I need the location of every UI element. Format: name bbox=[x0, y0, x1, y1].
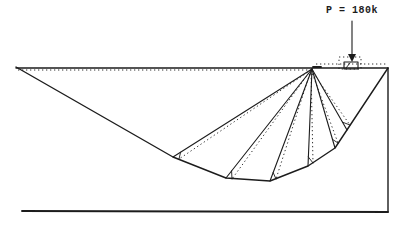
ray-base-tick bbox=[273, 173, 276, 179]
slip-surface bbox=[16, 67, 388, 181]
load-arrow-head bbox=[348, 54, 356, 62]
section-bottom-border bbox=[22, 211, 388, 212]
slice-ray-dotted bbox=[276, 70, 311, 179]
slice-ray bbox=[308, 69, 312, 166]
load-label: P = 180k bbox=[326, 5, 378, 16]
slice-ray-dotted bbox=[232, 70, 311, 179]
figure-canvas: P = 180k bbox=[0, 0, 399, 226]
slice-ray bbox=[312, 69, 347, 130]
ray-base-tick bbox=[308, 157, 313, 163]
failure-mechanism-diagram bbox=[0, 0, 399, 226]
slice-ray-dotted bbox=[179, 70, 311, 159]
slice-ray bbox=[226, 69, 312, 178]
slice-ray bbox=[312, 69, 335, 148]
slice-ray bbox=[173, 69, 312, 157]
